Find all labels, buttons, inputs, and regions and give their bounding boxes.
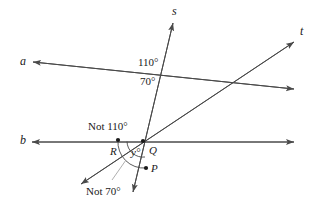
- angle-label-not-70: Not 70°: [86, 186, 121, 197]
- diagram-canvas: [0, 0, 316, 211]
- point-label-P: P: [151, 163, 158, 174]
- point-label-R: R: [110, 146, 117, 157]
- point-dot-Q: [141, 139, 145, 143]
- angle-label-not-110: Not 110°: [88, 121, 128, 132]
- line-label-b: b: [20, 134, 26, 146]
- line-label-a: a: [20, 55, 26, 67]
- angle-label-y: y°: [131, 147, 140, 158]
- angle-label-70: 70°: [140, 76, 155, 87]
- point-dot-R: [116, 138, 120, 142]
- geometry-diagram: a b s t R Q P 110° 70° Not 110° y° Not 7…: [0, 0, 316, 211]
- angle-label-110: 110°: [138, 57, 159, 68]
- point-dot-P: [144, 166, 148, 170]
- line-t-down-arrow: [81, 42, 294, 184]
- leader-not-70: [112, 160, 126, 180]
- point-label-Q: Q: [149, 145, 157, 156]
- line-label-s: s: [172, 5, 177, 17]
- line-a-right-arrow: [33, 62, 294, 89]
- line-label-t: t: [300, 25, 303, 37]
